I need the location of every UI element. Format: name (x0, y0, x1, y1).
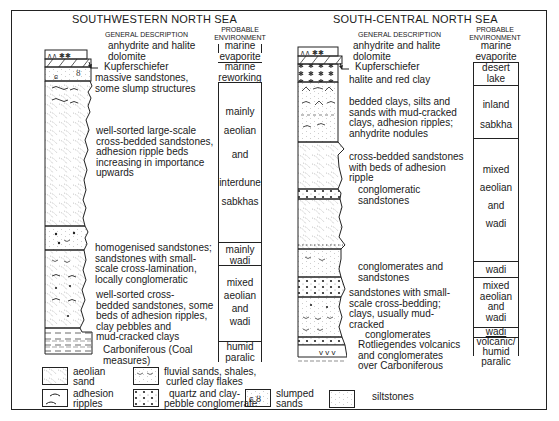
right-stratigraphic-column: ∧∧ ✱✱ v v v (297, 45, 347, 365)
right-desc-halite: halite and red clay (349, 75, 430, 86)
left-env-mainly-wadi: mainly wadi (214, 245, 266, 266)
left-stratigraphic-column: ∧∧ ✱✱ ɕ ȣ (44, 48, 96, 358)
left-section-title: SOUTHWESTERN NORTH SEA (72, 13, 237, 25)
left-desc-large-scale: well-sorted large-scale cross-bedded san… (96, 126, 213, 179)
right-desc-conglomerates-sandstones: conglomerates and sandstones (358, 262, 443, 283)
right-env-header: PROBABLE ENVIRONMENT (465, 26, 525, 41)
aeolian-sand-pattern-icon (42, 367, 68, 385)
right-env-wadi: wadi (470, 265, 522, 276)
right-section-title: SOUTH-CENTRAL NORTH SEA (333, 13, 498, 25)
adhesion-ripples-pattern-icon (42, 389, 68, 407)
right-env-inland-sabkha: inland sabkha (470, 95, 522, 135)
right-env-wadi-2: wadi (470, 327, 522, 336)
right-env-marine-evaporite: marine evaporite (470, 41, 522, 62)
legend-conglomerate: quartz and clay-pebble conglomerate (164, 389, 257, 409)
fluvial-sands-pattern-icon (133, 367, 159, 385)
right-env-volcanic-humid-paralic: volcanic/ humid paralic (470, 337, 522, 367)
svg-text:ɕ ȣ: ɕ ȣ (249, 394, 261, 404)
svg-text:∧∧ ✱✱: ∧∧ ✱✱ (47, 52, 71, 59)
left-desc-homogenised: homogenised sandstones; sandstones with … (95, 243, 212, 285)
conglomerate-pattern-icon (133, 389, 159, 407)
right-desc-small-scale: sandstones with small- scale cross-beddi… (349, 288, 450, 330)
legend-fluvial-sands: fluvial sands, shales,curled clay flakes (164, 367, 256, 387)
left-env-marine-evaporite: marine evaporite (214, 41, 266, 62)
legend-adhesion-ripples: adhesionripples (73, 389, 114, 409)
right-desc-header: GENERAL DESCRIPTION (358, 31, 441, 38)
right-env-mixed-aeolian-wadi: mixed aeolian and wadi (470, 161, 522, 233)
svg-text:ȣ: ȣ (76, 69, 81, 78)
right-desc-cross-bedded: cross-bedded sandstones with beds of adh… (349, 152, 464, 184)
left-env-mainly-aeolian: mainly (214, 107, 266, 118)
right-desc-bedded-clays: bedded clays, silts and sands with mud-c… (349, 97, 457, 139)
right-desc-rotliegendes: Rotliegendes volcanics and conglomerates… (358, 340, 460, 372)
siltstones-pattern-icon (329, 390, 355, 408)
slumped-sands-pattern-icon: ɕ ȣ (245, 389, 271, 407)
right-env-mixed-aeolian-wadi-2: mixed aeolian and wadi (470, 281, 522, 323)
right-desc-evaporite: anhydrite and halite dolomite Kupferschi… (353, 41, 440, 73)
left-desc-carboniferous: Carboniferous (Coal measures) (103, 345, 193, 366)
left-desc-header: GENERAL DESCRIPTION (105, 31, 188, 38)
left-env-header: PROBABLE ENVIRONMENT (210, 26, 270, 41)
left-desc-well-sorted: well-sorted cross- bedded sandstones, so… (96, 290, 213, 343)
legend-slumped-sands: slumpedsands (276, 389, 314, 409)
svg-text:∧∧ ✱✱: ∧∧ ✱✱ (300, 49, 324, 56)
left-env-mixed-aeolian-wadi: mixed aeolian and wadi (214, 276, 266, 328)
left-desc-evaporite: anhydrite and halite dolomite Kupferschi… (108, 41, 195, 73)
legend-aeolian-sand: aeoliansand (73, 367, 105, 387)
svg-text:v v v: v v v (319, 348, 335, 357)
svg-text:ɕ: ɕ (54, 72, 58, 81)
right-desc-conglomeratic: conglomeratic sandstones (358, 185, 420, 206)
left-env-marine-reworking: marine reworking (214, 62, 266, 83)
right-kupferschiefer-arrow (339, 62, 351, 74)
right-env-desert-lake: desert lake (470, 63, 522, 84)
left-env-humid-paralic: humid paralic (214, 342, 266, 363)
left-desc-massive-sandstones: massive sandstones, some slump structure… (95, 73, 196, 94)
legend-siltstones: siltstones (372, 392, 414, 402)
